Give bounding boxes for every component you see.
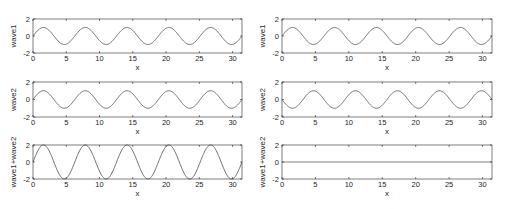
y-tick-label: -2 — [272, 175, 279, 184]
x-tick-label: 0 — [31, 180, 35, 189]
x-tick-label: 30 — [478, 180, 486, 189]
x-tick-label: 5 — [64, 180, 68, 189]
y-tick-label: -2 — [272, 113, 279, 122]
x-tick-label: 15 — [378, 180, 386, 189]
subplot-left-row1: 051015202530-202xwave1 — [9, 15, 242, 72]
x-tick-label: 20 — [162, 118, 170, 127]
x-axis-label: x — [385, 127, 389, 136]
data-line — [33, 145, 242, 179]
subplot-left-row2: 051015202530-202xwave2 — [9, 78, 242, 136]
y-tick-label: 2 — [275, 141, 279, 150]
x-tick-label: 15 — [378, 54, 386, 63]
y-tick-label: 0 — [275, 95, 279, 104]
subplot-left-row3: 051015202530-202xwave1+wave2 — [9, 136, 242, 198]
x-tick-label: 5 — [64, 118, 68, 127]
x-tick-label: 30 — [228, 54, 236, 63]
x-tick-label: 20 — [412, 180, 420, 189]
y-tick-label: -2 — [23, 49, 30, 58]
figure: 051015202530-202xwave1051015202530-202xw… — [0, 0, 507, 209]
subplot-right-row1: 051015202530-202xwave1 — [258, 15, 492, 72]
x-tick-label: 25 — [445, 54, 453, 63]
x-axis-label: x — [385, 189, 389, 198]
y-tick-label: -2 — [272, 49, 279, 58]
x-tick-label: 15 — [129, 118, 137, 127]
x-tick-label: 20 — [412, 54, 420, 63]
x-tick-label: 0 — [280, 180, 284, 189]
y-tick-label: 2 — [275, 78, 279, 87]
x-tick-label: 5 — [313, 118, 317, 127]
x-tick-label: 25 — [195, 180, 203, 189]
subplot-right-row2: 051015202530-202xwave2 — [258, 78, 492, 136]
data-line — [282, 91, 492, 109]
y-tick-label: 0 — [26, 95, 30, 104]
y-tick-label: 0 — [26, 32, 30, 41]
y-tick-label: 0 — [275, 32, 279, 41]
x-tick-label: 5 — [313, 180, 317, 189]
x-tick-label: 10 — [345, 180, 353, 189]
x-axis-label: x — [385, 63, 389, 72]
y-tick-label: -2 — [23, 175, 30, 184]
x-tick-label: 10 — [95, 118, 103, 127]
data-line — [33, 91, 242, 109]
x-tick-label: 30 — [228, 118, 236, 127]
x-tick-label: 5 — [313, 54, 317, 63]
x-tick-label: 0 — [31, 54, 35, 63]
x-tick-label: 30 — [228, 180, 236, 189]
x-tick-label: 15 — [129, 54, 137, 63]
x-tick-label: 25 — [195, 54, 203, 63]
y-axis-label: wave1 — [9, 24, 18, 49]
data-line — [282, 28, 492, 45]
x-tick-label: 10 — [95, 180, 103, 189]
x-tick-label: 10 — [345, 118, 353, 127]
x-tick-label: 10 — [95, 54, 103, 63]
y-tick-label: 2 — [26, 15, 30, 24]
x-tick-label: 25 — [445, 118, 453, 127]
x-tick-label: 15 — [129, 180, 137, 189]
x-tick-label: 0 — [280, 54, 284, 63]
x-tick-label: 5 — [64, 54, 68, 63]
x-tick-label: 20 — [412, 118, 420, 127]
x-tick-label: 0 — [280, 118, 284, 127]
y-axis-label: wave2 — [9, 87, 18, 112]
y-axis-label: wave1 — [258, 24, 267, 49]
data-line — [33, 28, 242, 45]
x-tick-label: 25 — [195, 118, 203, 127]
x-tick-label: 0 — [31, 118, 35, 127]
x-axis-label: x — [136, 127, 140, 136]
y-tick-label: 2 — [275, 15, 279, 24]
x-tick-label: 30 — [478, 118, 486, 127]
x-tick-label: 10 — [345, 54, 353, 63]
y-tick-label: 2 — [26, 141, 30, 150]
y-tick-label: -2 — [23, 113, 30, 122]
x-tick-label: 20 — [162, 180, 170, 189]
x-tick-label: 30 — [478, 54, 486, 63]
y-tick-label: 0 — [26, 158, 30, 167]
y-axis-label: wave1+wave2 — [258, 136, 267, 188]
y-tick-label: 0 — [275, 158, 279, 167]
x-axis-label: x — [136, 189, 140, 198]
x-tick-label: 25 — [445, 180, 453, 189]
x-tick-label: 15 — [378, 118, 386, 127]
x-tick-label: 20 — [162, 54, 170, 63]
subplot-right-row3: 051015202530-202xwave1+wave2 — [258, 136, 492, 198]
y-axis-label: wave2 — [258, 87, 267, 112]
y-axis-label: wave1+wave2 — [9, 136, 18, 188]
x-axis-label: x — [136, 63, 140, 72]
y-tick-label: 2 — [26, 78, 30, 87]
